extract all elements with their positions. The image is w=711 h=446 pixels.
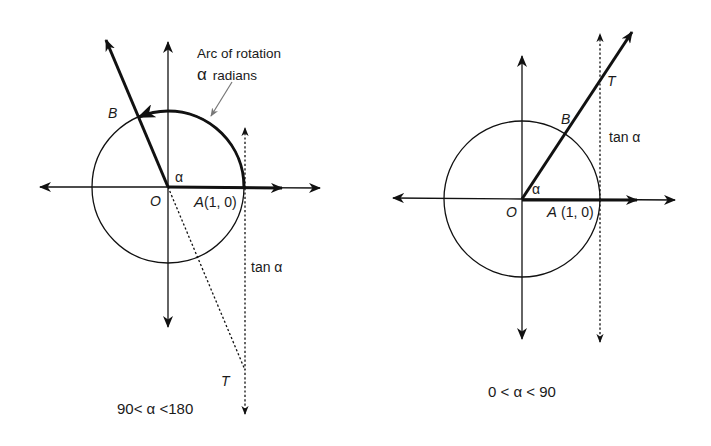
left-label-O: O — [150, 193, 161, 209]
left-label-A-letter: A — [193, 193, 204, 210]
right-label-A-letter: A — [546, 203, 557, 220]
left-annotation-line1: Arc of rotation — [197, 46, 281, 61]
right-label-A-coords: (1, 0) — [561, 204, 594, 220]
left-caption: 90< α <180 — [117, 400, 193, 417]
left-extension-to-T — [168, 187, 245, 370]
right-caption-text: 0 < α < 90 — [488, 383, 556, 400]
right-label-alpha: α — [532, 181, 540, 197]
left-label-A-coords: (1, 0) — [204, 194, 237, 210]
left-label-B: B — [108, 105, 117, 121]
left-annotation-pointer — [211, 82, 232, 116]
right-label-O: O — [506, 204, 517, 220]
left-annotation-alpha: α — [197, 65, 207, 84]
left-label-A: A(1, 0) — [193, 193, 237, 210]
right-label-tan: tan α — [609, 129, 640, 145]
left-arc-of-rotation — [139, 111, 244, 187]
left-ray-OA — [168, 187, 282, 188]
left-label-T: T — [221, 373, 231, 389]
left-diagram: B α O A(1, 0) tan α T Arc of rotation αr… — [40, 40, 320, 417]
right-label-T: T — [607, 73, 617, 89]
left-annotation-line2: αradians — [197, 65, 257, 84]
right-x-axis — [393, 198, 522, 199]
right-diagram: T B tan α α O A(1, 0) 0 < α < 90 — [393, 32, 675, 400]
left-annotation-radians: radians — [213, 68, 258, 83]
left-label-tan: tan α — [251, 259, 282, 275]
right-ray-OT — [522, 32, 632, 199]
right-label-A: A(1, 0) — [546, 203, 594, 220]
unit-circle-tangent-diagram: B α O A(1, 0) tan α T Arc of rotation αr… — [0, 0, 711, 446]
right-label-B: B — [561, 111, 570, 127]
left-label-alpha: α — [175, 169, 183, 185]
